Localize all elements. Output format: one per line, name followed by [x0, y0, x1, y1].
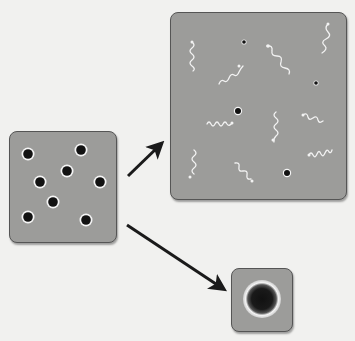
photon-icon — [302, 114, 324, 123]
particle-icon — [94, 176, 107, 189]
initial-particles — [22, 144, 107, 227]
particle-icon — [313, 80, 318, 85]
photon-icon — [190, 41, 194, 72]
particle-icon — [241, 39, 246, 44]
photon-icon — [266, 44, 289, 74]
photon-icon — [322, 23, 330, 54]
arrow-to-radiation-icon — [128, 145, 160, 176]
collapsed-object-icon — [243, 280, 281, 318]
radiation-particles — [234, 39, 319, 177]
particle-icon — [75, 144, 88, 157]
photon-icon — [219, 65, 243, 85]
particle-icon — [234, 107, 242, 115]
particle-icon — [34, 176, 47, 189]
photon-icon — [207, 122, 234, 127]
particle-icon — [47, 196, 60, 209]
photons — [189, 23, 333, 183]
diagram-canvas — [0, 0, 355, 341]
particle-icon — [283, 169, 291, 177]
particle-icon — [22, 211, 35, 224]
particle-icon — [61, 165, 74, 178]
photon-icon — [272, 112, 279, 142]
particle-icon — [22, 148, 35, 161]
photon-icon — [308, 150, 333, 157]
photon-icon — [235, 163, 254, 183]
particle-icon — [80, 214, 93, 227]
photon-icon — [189, 150, 197, 179]
arrow-to-collapse-icon — [127, 225, 222, 288]
